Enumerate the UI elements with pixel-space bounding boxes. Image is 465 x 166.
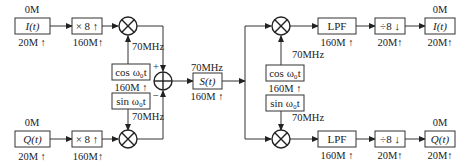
adder-plus-sign: + [153, 61, 159, 72]
q-input-bottom-label: 20M ↑ [18, 151, 46, 162]
output-signal-block: 70MHz S(t) 160M ↑ [191, 62, 224, 102]
demod-q-mixer-freq: 70MHz [292, 112, 324, 123]
demod-sin-label: sin ω₀t [270, 97, 300, 109]
i-input-bottom-label: 20M ↑ [18, 37, 46, 48]
q-lpf-bottom-label: 160M ↑ [321, 150, 354, 161]
i-output-bottom-label: 20M↑ [427, 37, 452, 48]
q-output-block: 0M Q(t) 20M↑ [425, 117, 455, 161]
q-decimator-label: ÷8 ↓ [380, 133, 400, 145]
output-top-label: 70MHz [191, 62, 223, 73]
i-input-label: I(t) [24, 20, 39, 33]
q-input-top-label: 0M [25, 117, 40, 128]
mod-cos-label: cos ω₀t [115, 66, 147, 78]
mod-sin-label: sin ω₀t [116, 95, 146, 107]
i-decimator-label: ÷8 ↓ [380, 20, 400, 32]
i-lpf-bottom-label: 160M ↑ [321, 37, 354, 48]
i-lpf-label: LPF [328, 20, 347, 32]
i-decimator-block: ÷8 ↓ 20M↑ [375, 18, 405, 48]
q-mixer-freq-label: 70MHz [132, 111, 164, 122]
demod-cos-label: cos ω₀t [269, 67, 301, 79]
i-interpolator-block: × 8 ↑ 160M↑ [72, 18, 103, 48]
mod-cos-oscillator: cos ω₀t 160M ↑ [112, 64, 150, 93]
i-interpolator-label: × 8 ↑ [76, 20, 99, 32]
i-mixer-freq-label: 70MHz [132, 41, 164, 52]
i-decimator-bottom-label: 20M↑ [377, 37, 402, 48]
q-input-block: 0M Q(t) 20M ↑ [15, 117, 50, 162]
q-output-top-label: 0M [433, 117, 448, 128]
demod-q-mixer [272, 130, 290, 148]
q-lpf-label: LPF [328, 133, 347, 145]
i-lpf-block: LPF 160M ↑ [318, 18, 356, 48]
iq-block-diagram: 0M I(t) 20M ↑ × 8 ↑ 160M↑ 70MHz cos ω₀t … [0, 0, 465, 166]
i-interpolator-bottom-label: 160M↑ [73, 37, 103, 48]
output-bottom-label: 160M ↑ [191, 91, 224, 102]
demod-cos-oscillator: cos ω₀t 160M ↑ [266, 65, 304, 94]
i-output-block: 0M I(t) 20M↑ [425, 4, 455, 48]
i-mixer [119, 17, 137, 35]
q-decimator-block: ÷8 ↓ 20M↑ [375, 131, 405, 161]
i-input-block: 0M I(t) 20M ↑ [15, 4, 50, 48]
q-interpolator-bottom-label: 160M↑ [73, 151, 103, 162]
q-output-bottom-label: 20M↑ [427, 150, 452, 161]
q-mixer [119, 130, 137, 148]
demod-cos-bottom-label: 160M ↑ [269, 83, 302, 94]
q-decimator-bottom-label: 20M↑ [377, 150, 402, 161]
demod-i-mixer-freq: 70MHz [292, 49, 324, 60]
adder-minus-sign: − [153, 90, 159, 101]
i-input-top-label: 0M [25, 4, 40, 15]
i-output-top-label: 0M [433, 4, 448, 15]
demod-i-mixer [272, 17, 290, 35]
mod-sin-oscillator: sin ω₀t [112, 93, 150, 109]
mod-cos-bottom-label: 160M ↑ [115, 82, 148, 93]
i-output-label: I(t) [432, 20, 447, 33]
q-lpf-block: LPF 160M ↑ [318, 131, 356, 161]
q-input-label: Q(t) [23, 133, 42, 146]
demod-sin-oscillator: sin ω₀t [266, 95, 304, 111]
adder [154, 72, 172, 90]
q-interpolator-label: × 8 ↑ [76, 133, 99, 145]
q-output-label: Q(t) [431, 133, 450, 146]
output-label: S(t) [200, 75, 216, 88]
q-interpolator-block: × 8 ↑ 160M↑ [72, 131, 103, 162]
